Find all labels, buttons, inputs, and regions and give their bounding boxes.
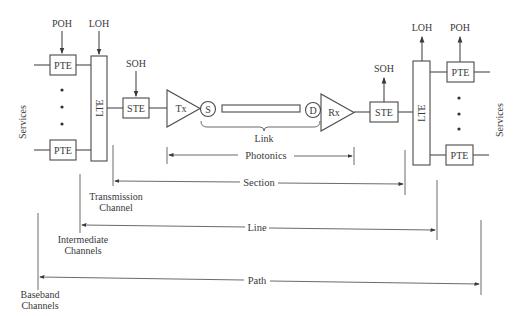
intermediate-channels-label-line1: Intermediate [58, 234, 109, 245]
source-label: S [205, 104, 211, 115]
left-lte-label: LTE [94, 99, 105, 116]
left-pte-bottom-label: PTE [54, 145, 72, 156]
transmission-channel-label-line1: Transmission [89, 191, 143, 202]
right-pte-top-label: PTE [452, 67, 470, 78]
left-loh-label: LOH [89, 18, 110, 29]
right-terminal: STE SOH LTE LOH POH PTE PTE Services [370, 22, 505, 165]
right-services-label: Services [494, 103, 505, 137]
left-services-label: Services [17, 105, 28, 139]
intermediate-channels-label-line2: Channels [64, 245, 101, 256]
ellipsis-dot [60, 105, 63, 108]
left-pte-top-label: PTE [54, 60, 72, 71]
rx-label: Rx [328, 107, 340, 118]
path-span-label: Path [248, 275, 267, 286]
ellipsis-dot [60, 122, 63, 125]
baseband-channels-label-line1: Baseband [21, 289, 60, 300]
right-poh-label: POH [450, 22, 470, 33]
right-pte-bottom-label: PTE [451, 150, 469, 161]
sonet-reference-model-diagram: Services POH LOH PTE PTE LTE SOH STE [0, 0, 520, 316]
line-span-label: Line [247, 222, 267, 233]
link-label: Link [255, 133, 274, 144]
right-lte-label: LTE [416, 104, 427, 121]
section-span-label: Section [243, 177, 275, 188]
left-soh-label: SOH [126, 58, 146, 69]
span-dimensions: Photonics Section Transmission Channel L… [21, 145, 481, 311]
right-soh-label: SOH [374, 63, 394, 74]
ellipsis-dot [457, 112, 460, 115]
optical-link: Tx S D Rx Link [167, 90, 370, 144]
ellipsis-dot [457, 127, 460, 130]
fiber-rect [222, 105, 300, 112]
photonics-span-label: Photonics [245, 150, 286, 161]
ellipsis-dot [457, 96, 460, 99]
baseband-channels-label-line2: Channels [21, 300, 58, 311]
left-poh-label: POH [52, 18, 72, 29]
tx-label: Tx [175, 103, 186, 114]
left-ste-label: STE [127, 103, 145, 114]
link-brace [201, 121, 320, 131]
right-ste-label: STE [375, 107, 393, 118]
right-loh-label: LOH [412, 22, 433, 33]
ellipsis-dot [60, 88, 63, 91]
transmission-channel-label-line2: Channel [99, 202, 133, 213]
detector-label: D [309, 105, 316, 116]
left-terminal: Services POH LOH PTE PTE LTE SOH STE [17, 18, 167, 161]
